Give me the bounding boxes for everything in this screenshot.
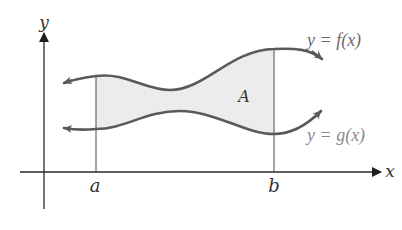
region-label-A: A [236, 87, 250, 106]
bound-label-b: b [268, 175, 280, 196]
curve-g-left-arrow-icon [64, 128, 72, 129]
curve-g-right-arrow-icon [314, 111, 321, 118]
bound-label-a: a [90, 175, 101, 196]
curve-f-equation-label: y = f(x) [305, 30, 361, 51]
curve-f-left-arrow-icon [64, 80, 72, 83]
area-between-curves-diagram: y x a b A y = f(x) y = g(x) [0, 0, 402, 230]
x-axis-label: x [385, 161, 395, 181]
y-axis-label: y [38, 12, 49, 32]
curve-g-equation-label: y = g(x) [305, 125, 365, 146]
